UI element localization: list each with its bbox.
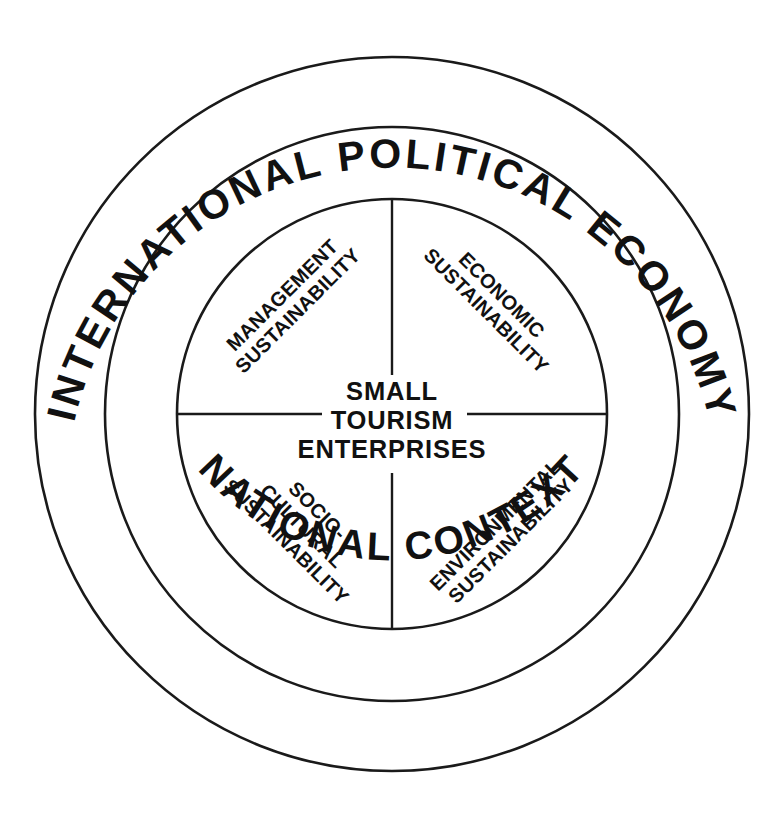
diagram-canvas: INTERNATIONAL POLITICAL ECONOMY NATIONAL… — [0, 0, 778, 817]
center-label-line-2: TOURISM — [331, 406, 454, 434]
center-label: SMALL TOURISM ENTERPRISES — [298, 377, 487, 463]
quadrant-economic: ECONOMIC SUSTAINABILITY — [420, 228, 569, 377]
center-label-line-3: ENTERPRISES — [298, 435, 487, 463]
quadrant-management: MANAGEMENT SUSTAINABILITY — [215, 228, 364, 377]
concentric-sustainability-diagram: INTERNATIONAL POLITICAL ECONOMY NATIONAL… — [0, 0, 778, 817]
center-label-line-1: SMALL — [346, 377, 438, 405]
